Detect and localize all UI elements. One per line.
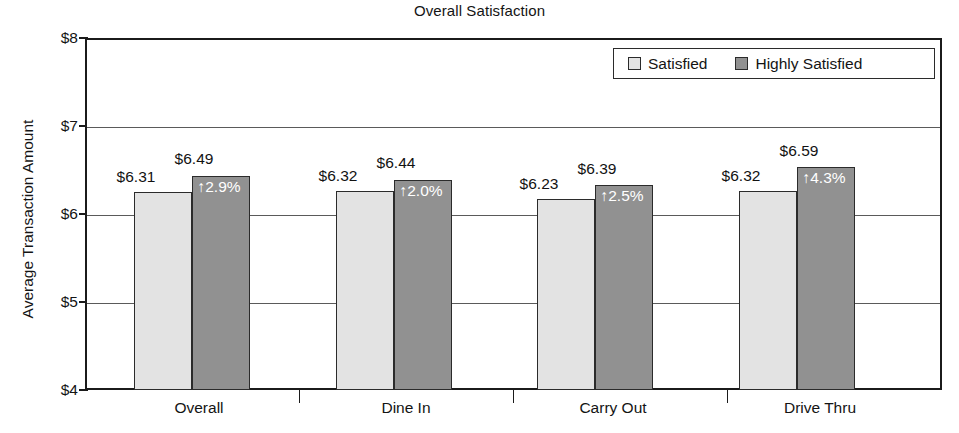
x-cat-label-overall: Overall: [132, 399, 266, 417]
x-cat-label-drive-thru: Drive Thru: [753, 399, 887, 417]
y-tick-label-7: $7: [32, 117, 78, 135]
plot-area: Satisfied Highly Satisfied: [85, 38, 942, 390]
legend-label-highly-satisfied: Highly Satisfied: [755, 55, 862, 73]
value-label-drive-thru-satisfied: $6.32: [707, 167, 775, 185]
value-label-overall-satisfied: $6.31: [102, 168, 170, 186]
y-tick-label-6: $6: [32, 205, 78, 223]
bar-carry-out-satisfied[interactable]: [537, 199, 595, 390]
x-cat-label-carry-out: Carry Out: [546, 399, 680, 417]
bar-drive-thru-satisfied[interactable]: [739, 191, 797, 390]
delta-label-drive-thru: ↑4.3%: [795, 169, 853, 187]
delta-label-overall: ↑2.9%: [190, 178, 248, 196]
value-label-drive-thru-highly-satisfied: $6.59: [765, 142, 833, 160]
bar-overall-satisfied[interactable]: [134, 192, 192, 390]
dark-gray-swatch-icon: [735, 57, 748, 70]
chart-container: Overall Satisfaction Average Transaction…: [0, 0, 959, 433]
bar-carry-out-highly-satisfied[interactable]: [595, 185, 653, 390]
value-label-carry-out-highly-satisfied: $6.39: [563, 160, 631, 178]
x-axis-separator-3: [727, 390, 728, 403]
delta-label-carry-out: ↑2.5%: [593, 187, 651, 205]
x-axis-separator-2: [513, 390, 514, 403]
y-axis-ticks: $8 $7 $6 $5 $4: [20, 0, 78, 433]
chart-legend: Satisfied Highly Satisfied: [613, 48, 935, 79]
x-cat-label-dine-in: Dine In: [339, 399, 473, 417]
legend-label-satisfied: Satisfied: [648, 55, 707, 73]
y-tick-label-8: $8: [32, 29, 78, 47]
bar-overall-highly-satisfied[interactable]: [192, 176, 250, 390]
bar-dine-in-satisfied[interactable]: [336, 191, 394, 390]
legend-item-highly-satisfied[interactable]: Highly Satisfied: [735, 55, 862, 73]
legend-item-satisfied[interactable]: Satisfied: [628, 55, 707, 73]
value-label-dine-in-highly-satisfied: $6.44: [362, 154, 430, 172]
bar-dine-in-highly-satisfied[interactable]: [394, 180, 452, 390]
gridline-7: [87, 127, 940, 128]
bar-drive-thru-highly-satisfied[interactable]: [797, 167, 855, 390]
y-tick-label-4: $4: [32, 381, 78, 399]
chart-title: Overall Satisfaction: [0, 2, 959, 19]
light-gray-swatch-icon: [628, 57, 641, 70]
y-tick-label-5: $5: [32, 293, 78, 311]
delta-label-dine-in: ↑2.0%: [392, 182, 450, 200]
x-axis-separator-1: [299, 390, 300, 403]
value-label-overall-highly-satisfied: $6.49: [160, 150, 228, 168]
